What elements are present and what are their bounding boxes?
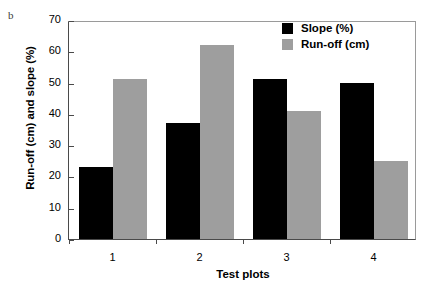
bar-slope-4 xyxy=(340,83,374,239)
y-tick-mark xyxy=(69,84,74,85)
y-tick-mark xyxy=(69,21,74,22)
bar-runoff-1 xyxy=(113,79,147,239)
y-tick-label: 50 xyxy=(49,77,61,88)
x-tick-mark xyxy=(69,239,70,244)
x-tick-mark xyxy=(330,239,331,244)
y-tick-mark xyxy=(69,146,74,147)
y-tick-mark xyxy=(69,52,74,53)
y-tick-mark xyxy=(69,115,74,116)
bar-runoff-3 xyxy=(287,111,321,239)
legend-item: Run-off (cm) xyxy=(282,38,369,51)
x-tick-label: 3 xyxy=(257,252,317,263)
y-tick-label: 20 xyxy=(49,170,61,181)
y-axis-title: Run-off (cm) and slope (%) xyxy=(24,3,36,233)
x-tick-label: 2 xyxy=(170,252,230,263)
legend-label: Slope (%) xyxy=(301,23,353,35)
x-tick-label: 4 xyxy=(344,252,404,263)
x-tick-label: 1 xyxy=(83,252,143,263)
x-tick-mark xyxy=(243,239,244,244)
panel-label: b xyxy=(8,10,14,21)
bar-runoff-2 xyxy=(200,45,234,239)
bar-runoff-4 xyxy=(374,161,408,239)
x-axis-title: Test plots xyxy=(68,268,418,280)
y-tick-mark xyxy=(69,209,74,210)
chart-legend: Slope (%)Run-off (cm) xyxy=(282,22,369,54)
figure-panel: b Run-off (cm) and slope (%) 01020304050… xyxy=(0,0,440,289)
legend-swatch-icon xyxy=(282,23,293,34)
legend-label: Run-off (cm) xyxy=(301,39,369,51)
y-tick-label: 10 xyxy=(49,202,61,213)
x-tick-mark xyxy=(156,239,157,244)
legend-swatch-icon xyxy=(282,39,293,50)
bar-slope-1 xyxy=(79,167,113,239)
y-tick-label: 0 xyxy=(55,233,61,244)
y-tick-mark xyxy=(69,177,74,178)
y-tick-label: 40 xyxy=(49,108,61,119)
y-tick-label: 60 xyxy=(49,45,61,56)
y-tick-label: 70 xyxy=(49,14,61,25)
bar-slope-2 xyxy=(166,123,200,239)
legend-item: Slope (%) xyxy=(282,22,369,35)
y-tick-label: 30 xyxy=(49,139,61,150)
bar-slope-3 xyxy=(253,79,287,239)
